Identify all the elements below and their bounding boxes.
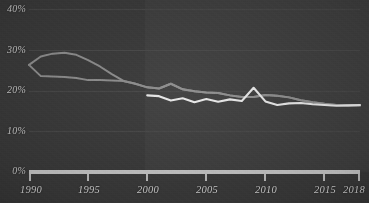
x-tick-label-2005: 2005	[189, 184, 225, 195]
x-axis-ticks	[30, 174, 359, 181]
plot-area	[0, 0, 369, 203]
x-tick-label-2000: 2000	[130, 184, 166, 195]
series-lower-bound	[29, 65, 360, 106]
chart-root: 40% 30% 20% 10% 0% 1990	[0, 0, 369, 203]
x-tick-label-2010: 2010	[248, 184, 284, 195]
x-tick-label-2018: 2018	[339, 184, 369, 195]
x-tick-label-1990: 1990	[13, 184, 49, 195]
grid-lines	[29, 10, 360, 132]
x-tick-label-2015: 2015	[307, 184, 343, 195]
x-axis-baseline	[29, 170, 360, 174]
x-tick-label-1995: 1995	[71, 184, 107, 195]
